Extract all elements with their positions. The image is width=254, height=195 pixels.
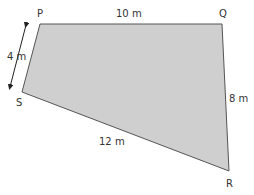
side-label-qr: 8 m: [229, 93, 248, 104]
vertex-label-r: R: [226, 178, 233, 189]
quadrilateral-pqrs: [22, 24, 229, 171]
side-label-sp: 4 m: [7, 51, 26, 62]
vertex-label-p: P: [37, 8, 43, 19]
vertex-label-s: S: [16, 97, 22, 108]
side-label-rs: 12 m: [99, 136, 125, 147]
quadrilateral-diagram: P Q R S 10 m 8 m 12 m 4 m: [0, 0, 254, 195]
side-label-pq: 10 m: [116, 8, 142, 19]
vertex-label-q: Q: [219, 8, 227, 19]
